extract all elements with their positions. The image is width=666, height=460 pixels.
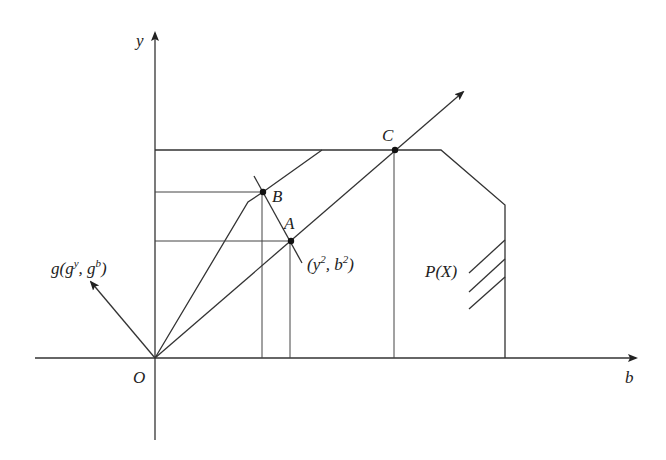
technology-set-right-boundary xyxy=(155,150,505,358)
point-B-label: B xyxy=(272,187,283,206)
gradient-vector-arrow xyxy=(91,282,155,358)
point-A-label: A xyxy=(283,214,295,233)
origin-label: O xyxy=(133,368,145,387)
hatch-mark xyxy=(469,259,505,292)
b-axis-label: b xyxy=(625,368,634,387)
point-A-dot xyxy=(288,238,294,244)
hatch-mark xyxy=(469,240,505,273)
set-label: P(X) xyxy=(424,262,457,281)
ray-O-A-C xyxy=(155,92,463,358)
hatch-mark xyxy=(469,277,505,309)
gradient-label: g(gy, gb) xyxy=(51,257,107,278)
point-coordinates-label: (y2, b2) xyxy=(307,253,354,274)
y-axis-label: y xyxy=(134,31,144,50)
point-C-dot xyxy=(392,147,398,153)
point-B-dot xyxy=(260,189,266,195)
production-possibility-diagram: y b O B A C g(gy, gb) (y2, b2) P(X) xyxy=(0,0,666,460)
point-C-label: C xyxy=(382,126,394,145)
